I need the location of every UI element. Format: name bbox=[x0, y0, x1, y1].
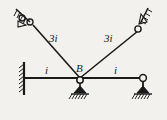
label-beam-left-stiffness: i bbox=[45, 64, 48, 76]
diagram-canvas: 3i 3i B i i bbox=[0, 0, 167, 120]
structural-frame-diagram: 3i 3i B i i bbox=[0, 0, 167, 120]
label-joint-b: B bbox=[76, 62, 83, 74]
label-left-diagonal-stiffness: 3i bbox=[48, 32, 58, 44]
fixed-wall-left-support bbox=[19, 62, 24, 95]
label-beam-right-stiffness: i bbox=[114, 64, 117, 76]
pin-support-top-right bbox=[135, 8, 152, 32]
label-right-diagonal-stiffness: 3i bbox=[103, 32, 113, 44]
hinge-joint-b bbox=[69, 77, 89, 99]
pin-support-top-left bbox=[14, 9, 33, 27]
